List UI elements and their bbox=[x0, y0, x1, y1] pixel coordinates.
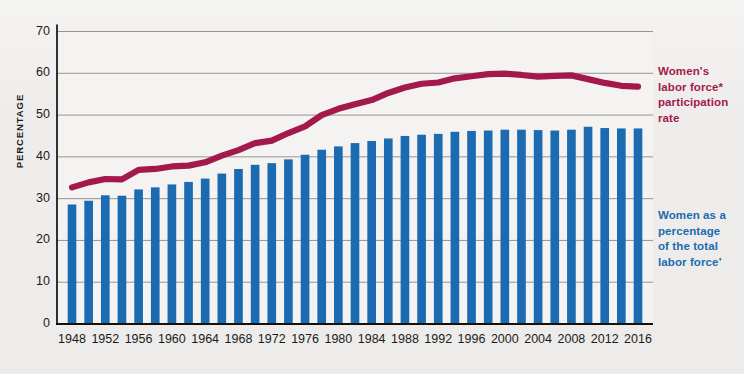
bar bbox=[68, 204, 77, 324]
bar bbox=[501, 130, 510, 324]
bar bbox=[168, 184, 177, 324]
legend-womens-labor-force-participation-rate: Women'slabor force*participationrate bbox=[658, 64, 744, 126]
y-tick-label: 20 bbox=[14, 232, 50, 246]
bar bbox=[550, 131, 559, 324]
bar bbox=[234, 169, 243, 324]
bar bbox=[401, 136, 410, 324]
bar bbox=[218, 174, 227, 324]
bar bbox=[634, 128, 643, 324]
bar bbox=[134, 189, 143, 324]
y-tick-label: 50 bbox=[14, 107, 50, 121]
bar bbox=[484, 131, 493, 324]
bar bbox=[334, 146, 343, 324]
bar bbox=[184, 182, 193, 324]
bar bbox=[251, 165, 260, 324]
labor-force-chart bbox=[0, 0, 744, 374]
y-tick-label: 0 bbox=[14, 316, 50, 330]
bar bbox=[617, 128, 626, 324]
bar bbox=[284, 159, 293, 324]
bar bbox=[267, 163, 276, 324]
bar bbox=[301, 155, 310, 324]
bar bbox=[101, 195, 110, 324]
bar bbox=[467, 131, 476, 324]
bar bbox=[367, 141, 376, 324]
x-tick-label: 2016 bbox=[614, 332, 662, 346]
bar bbox=[451, 132, 460, 324]
y-tick-label: 70 bbox=[14, 24, 50, 38]
y-tick-label: 10 bbox=[14, 274, 50, 288]
bar bbox=[534, 130, 543, 324]
bar bbox=[434, 134, 443, 324]
bar bbox=[317, 150, 326, 324]
bar bbox=[567, 130, 576, 324]
bar bbox=[584, 127, 593, 324]
bar bbox=[118, 196, 127, 324]
y-tick-label: 30 bbox=[14, 191, 50, 205]
bar bbox=[151, 187, 160, 324]
bar bbox=[517, 130, 526, 324]
bar bbox=[84, 201, 93, 324]
legend-women-share-of-labor-force: Women as apercentageof the totallabor fo… bbox=[658, 208, 744, 270]
chart-page: PERCENTAGE Women'slabor force*participat… bbox=[0, 0, 744, 374]
bar bbox=[201, 179, 210, 324]
bar bbox=[384, 138, 393, 324]
bar bbox=[417, 135, 426, 324]
y-tick-label: 40 bbox=[14, 149, 50, 163]
y-tick-label: 60 bbox=[14, 65, 50, 79]
bar bbox=[351, 143, 360, 324]
bar bbox=[600, 128, 609, 324]
